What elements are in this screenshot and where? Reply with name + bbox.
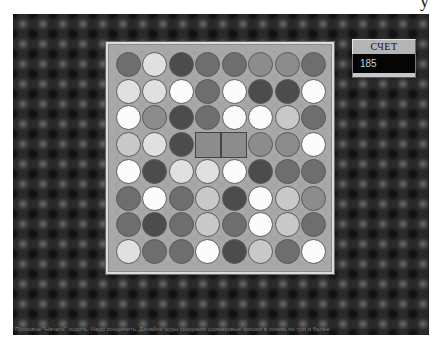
board-cell xyxy=(248,238,275,265)
board-cell xyxy=(274,185,301,212)
game-piece[interactable] xyxy=(248,105,273,130)
board-cell xyxy=(301,158,328,185)
board-cell xyxy=(301,78,328,105)
game-piece[interactable] xyxy=(248,186,273,211)
game-piece[interactable] xyxy=(142,79,167,104)
game-piece[interactable] xyxy=(142,132,167,157)
board-cell xyxy=(195,212,222,239)
board-cell xyxy=(115,185,142,212)
game-piece[interactable] xyxy=(142,239,167,264)
board-cell xyxy=(195,158,222,185)
game-piece[interactable] xyxy=(248,52,273,77)
game-piece[interactable] xyxy=(301,159,326,184)
game-piece[interactable] xyxy=(116,105,141,130)
game-piece[interactable] xyxy=(116,132,141,157)
board-cell xyxy=(274,78,301,105)
board-cell xyxy=(248,78,275,105)
game-piece[interactable] xyxy=(301,52,326,77)
game-piece[interactable] xyxy=(116,239,141,264)
score-panel: СЧЕТ 185 xyxy=(352,39,416,79)
game-piece[interactable] xyxy=(275,239,300,264)
game-piece[interactable] xyxy=(195,212,220,237)
game-piece[interactable] xyxy=(169,186,194,211)
board-cell xyxy=(195,78,222,105)
board-cell xyxy=(301,238,328,265)
game-piece[interactable] xyxy=(222,186,247,211)
game-piece[interactable] xyxy=(275,132,300,157)
board-cell xyxy=(142,105,169,132)
board-cell xyxy=(195,131,222,158)
game-piece[interactable] xyxy=(301,212,326,237)
board-cell xyxy=(142,238,169,265)
game-piece[interactable] xyxy=(195,79,220,104)
board-cell xyxy=(221,51,248,78)
board-cell xyxy=(115,78,142,105)
game-piece[interactable] xyxy=(248,79,273,104)
game-piece[interactable] xyxy=(301,186,326,211)
selected-piece[interactable] xyxy=(195,132,221,158)
game-piece[interactable] xyxy=(116,186,141,211)
game-piece[interactable] xyxy=(301,79,326,104)
board-cell xyxy=(142,131,169,158)
game-piece[interactable] xyxy=(248,132,273,157)
game-piece[interactable] xyxy=(222,239,247,264)
game-piece[interactable] xyxy=(116,159,141,184)
score-value: 185 xyxy=(352,54,416,73)
board-cell xyxy=(221,185,248,212)
game-piece[interactable] xyxy=(142,105,167,130)
game-piece[interactable] xyxy=(222,212,247,237)
board-cell xyxy=(301,212,328,239)
board-cell xyxy=(115,131,142,158)
game-piece[interactable] xyxy=(169,159,194,184)
game-piece[interactable] xyxy=(222,105,247,130)
game-piece[interactable] xyxy=(222,159,247,184)
game-piece[interactable] xyxy=(169,212,194,237)
game-piece[interactable] xyxy=(222,52,247,77)
game-piece[interactable] xyxy=(116,79,141,104)
board-cell xyxy=(168,105,195,132)
game-piece[interactable] xyxy=(301,132,326,157)
board-cell xyxy=(195,51,222,78)
board-cell xyxy=(142,78,169,105)
game-piece[interactable] xyxy=(275,186,300,211)
game-piece[interactable] xyxy=(195,52,220,77)
board-cell xyxy=(274,158,301,185)
game-piece[interactable] xyxy=(116,52,141,77)
game-piece[interactable] xyxy=(248,212,273,237)
game-piece[interactable] xyxy=(142,186,167,211)
board-cell xyxy=(301,185,328,212)
game-piece[interactable] xyxy=(301,239,326,264)
board-cell xyxy=(248,158,275,185)
game-piece[interactable] xyxy=(142,52,167,77)
game-piece[interactable] xyxy=(275,105,300,130)
board-cell xyxy=(195,105,222,132)
game-piece[interactable] xyxy=(169,52,194,77)
board-cell xyxy=(168,158,195,185)
game-piece[interactable] xyxy=(195,159,220,184)
game-piece[interactable] xyxy=(142,212,167,237)
game-piece[interactable] xyxy=(275,52,300,77)
game-piece[interactable] xyxy=(275,212,300,237)
game-piece[interactable] xyxy=(301,105,326,130)
game-piece[interactable] xyxy=(248,159,273,184)
board-cell xyxy=(248,131,275,158)
game-piece[interactable] xyxy=(169,239,194,264)
game-piece[interactable] xyxy=(275,159,300,184)
game-piece[interactable] xyxy=(142,159,167,184)
game-piece[interactable] xyxy=(248,239,273,264)
board-cell xyxy=(195,238,222,265)
game-piece[interactable] xyxy=(169,79,194,104)
board-cell xyxy=(248,105,275,132)
game-piece[interactable] xyxy=(195,186,220,211)
game-piece[interactable] xyxy=(222,79,247,104)
game-piece[interactable] xyxy=(116,212,141,237)
game-piece[interactable] xyxy=(169,132,194,157)
game-piece[interactable] xyxy=(195,239,220,264)
board-cell xyxy=(168,51,195,78)
game-piece[interactable] xyxy=(169,105,194,130)
game-piece[interactable] xyxy=(275,79,300,104)
board-cell xyxy=(115,238,142,265)
game-piece[interactable] xyxy=(195,105,220,130)
board-cell xyxy=(301,105,328,132)
selected-piece[interactable] xyxy=(221,132,247,158)
